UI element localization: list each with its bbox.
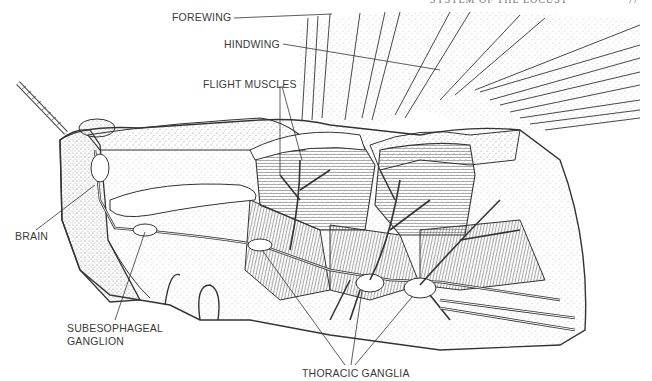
label-thoracic-ganglia: THORACIC GANGLIA xyxy=(302,367,410,379)
label-flight-muscles: FLIGHT MUSCLES xyxy=(203,78,297,90)
wings xyxy=(300,10,640,135)
metathoracic-ganglion xyxy=(404,278,436,298)
brain-ganglion xyxy=(91,154,109,182)
label-subesophageal-ganglion-line1: SUBESOPHAGEAL xyxy=(67,322,163,334)
forewing-leader xyxy=(234,14,332,18)
label-forewing: FOREWING xyxy=(172,11,231,23)
subesophageal-ganglion xyxy=(133,224,157,236)
label-subesophageal-ganglion-line2: GANGLION xyxy=(67,335,124,347)
mesothoracic-ganglion xyxy=(356,274,384,292)
label-brain: BRAIN xyxy=(15,230,48,242)
prothoracic-ganglion xyxy=(248,239,272,251)
label-hindwing: HINDWING xyxy=(224,38,280,50)
antenna xyxy=(18,83,66,133)
